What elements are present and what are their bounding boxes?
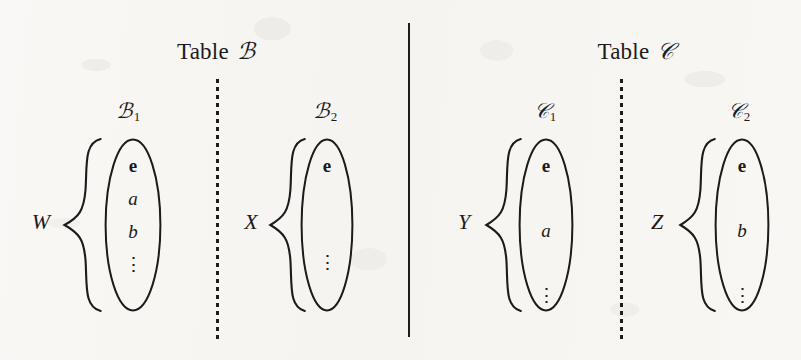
group-title-subscript: 1: [133, 109, 141, 124]
set-element: b: [104, 222, 162, 241]
section-header-table-b: Table ℬ: [177, 40, 255, 63]
group-title-subscript: 2: [330, 109, 338, 124]
section-header-word: Table: [598, 39, 650, 64]
set-label-c1: Y: [458, 211, 470, 233]
section-header-table-c: Table 𝒞: [598, 40, 675, 63]
set-bubble-b1: eab⋮: [104, 138, 162, 312]
set-element: a: [518, 221, 574, 240]
set-element: e: [714, 156, 770, 175]
section-header-symbol: ℬ: [235, 39, 255, 64]
group-title-b1: ℬ1: [116, 101, 141, 123]
group-divider-dotted-table-b: [216, 79, 219, 341]
set-label-c2: Z: [651, 211, 663, 233]
ellipsis-vertical-icon: ⋮: [714, 286, 770, 305]
set-label-b2: X: [244, 211, 257, 233]
group-title-b2: ℬ2: [313, 101, 338, 123]
set-element: b: [714, 221, 770, 240]
set-bubble-c2: eb⋮: [714, 138, 770, 312]
group-title-symbol: ℬ: [116, 99, 133, 123]
group-divider-dotted-table-c: [620, 79, 623, 341]
set-elements-b1: eab⋮: [104, 156, 162, 274]
ellipsis-vertical-icon: ⋮: [518, 286, 574, 305]
group-title-symbol: 𝒞: [728, 99, 743, 123]
group-title-c1: 𝒞1: [534, 101, 557, 123]
set-element: e: [104, 156, 162, 175]
set-elements-c1: ea⋮: [518, 156, 574, 305]
curly-brace-c2: [678, 137, 718, 313]
group-title-subscript: 1: [549, 109, 557, 124]
section-header-symbol: 𝒞: [655, 39, 674, 64]
set-elements-c2: eb⋮: [714, 156, 770, 305]
figure-canvas: Table ℬℬ1Weab⋮ℬ2Xe⋮Table 𝒞𝒞1Yea⋮𝒞2Zeb⋮: [0, 0, 801, 360]
set-elements-b2: e⋮: [300, 156, 354, 272]
set-label-b1: W: [32, 211, 50, 233]
set-element: a: [104, 189, 162, 208]
set-bubble-b2: e⋮: [300, 138, 354, 312]
ellipsis-vertical-icon: ⋮: [104, 255, 162, 274]
ellipsis-vertical-icon: ⋮: [300, 253, 354, 272]
section-divider-solid: [408, 23, 410, 337]
group-title-symbol: 𝒞: [534, 99, 549, 123]
curly-brace-b1: [62, 137, 104, 313]
section-header-word: Table: [177, 39, 229, 64]
set-element: e: [518, 156, 574, 175]
set-bubble-c1: ea⋮: [518, 138, 574, 312]
set-element: e: [300, 156, 354, 175]
group-title-c2: 𝒞2: [728, 101, 751, 123]
group-title-symbol: ℬ: [313, 99, 330, 123]
group-title-subscript: 2: [743, 109, 751, 124]
